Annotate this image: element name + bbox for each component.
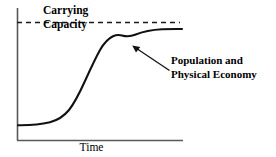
population-annotation-line1: Population and [171, 55, 257, 67]
carrying-capacity-chart: Carrying Capacity Population and Physica… [0, 0, 276, 157]
population-curve [18, 29, 182, 125]
annotation-arrow-shaft [136, 48, 170, 71]
population-annotation-label: Population and Physical Economy [171, 55, 257, 81]
carrying-capacity-label-line1: Carrying [43, 4, 88, 16]
carrying-capacity-label-line2: Capacity [43, 18, 88, 30]
x-axis-title: Time [0, 141, 183, 153]
population-annotation-line2: Physical Economy [171, 69, 257, 81]
annotation-arrow-head [132, 45, 140, 52]
carrying-capacity-label: Carrying Capacity [43, 4, 88, 31]
